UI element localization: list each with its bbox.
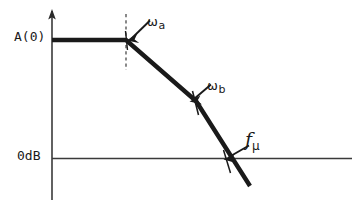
f-mu-label-base: f [245, 128, 252, 150]
f-mu-label-subscript: μ [252, 139, 260, 153]
gain-asymptote-curve [52, 40, 250, 186]
omega-a-label-base: ω [147, 14, 158, 29]
omega-b-label: ωb [207, 79, 225, 95]
f-mu-label: fμ [245, 130, 260, 152]
gain-axis-a0-label: A(0) [14, 30, 45, 43]
bode-plot-canvas [0, 0, 358, 210]
omega-a-label-subscript: a [158, 19, 165, 32]
omega-a-label: ωa [147, 15, 165, 31]
omega-b-label-base: ω [207, 78, 218, 93]
gain-axis-0db-label: 0dB [17, 149, 40, 162]
omega-b-label-subscript: b [218, 83, 225, 96]
bode-plot-figure: A(0) 0dB ωa ωb fμ [0, 0, 358, 210]
